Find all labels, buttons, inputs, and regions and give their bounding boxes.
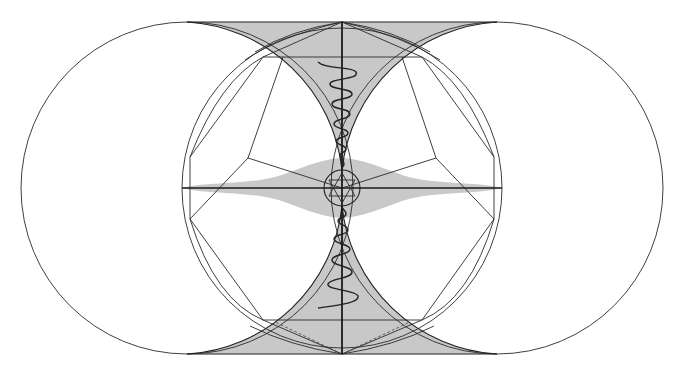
sacred-geometry-diagram: Sacred geometry: two tangent circles wit… [0,0,683,371]
diagram-canvas [0,0,683,371]
